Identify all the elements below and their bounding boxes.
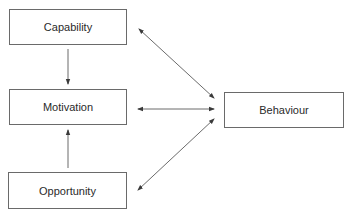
- node-motivation: Motivation: [9, 89, 127, 125]
- arrow-opportunity-behaviour: [138, 119, 214, 190]
- node-label: Capability: [44, 21, 92, 33]
- node-opportunity: Opportunity: [8, 172, 127, 209]
- arrow-capability-behaviour: [139, 29, 214, 98]
- node-label: Motivation: [43, 101, 93, 113]
- node-label: Behaviour: [259, 104, 309, 116]
- node-behaviour: Behaviour: [224, 92, 344, 128]
- node-label: Opportunity: [39, 185, 96, 197]
- node-capability: Capability: [9, 9, 127, 45]
